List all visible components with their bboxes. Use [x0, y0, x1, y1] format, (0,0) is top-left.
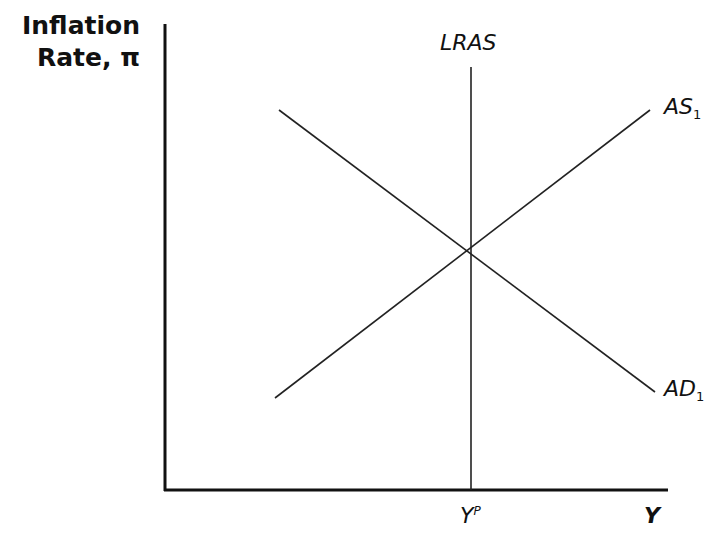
yp-base: Y — [460, 503, 473, 528]
as1-label-sub: 1 — [693, 107, 701, 122]
x-axis-label: Y — [644, 503, 660, 528]
as1-label-base: AS — [664, 94, 693, 119]
diagram-canvas — [0, 0, 714, 540]
yp-sup: P — [473, 504, 480, 518]
ad1-label: AD1 — [664, 376, 704, 404]
potential-output-label: YP — [460, 503, 481, 528]
as1-label: AS1 — [664, 94, 701, 122]
as1-curve — [275, 110, 650, 398]
ad1-label-sub: 1 — [696, 389, 704, 404]
lras-label: LRAS — [440, 30, 497, 55]
ad1-label-base: AD — [664, 376, 696, 401]
ad1-curve — [279, 110, 655, 392]
